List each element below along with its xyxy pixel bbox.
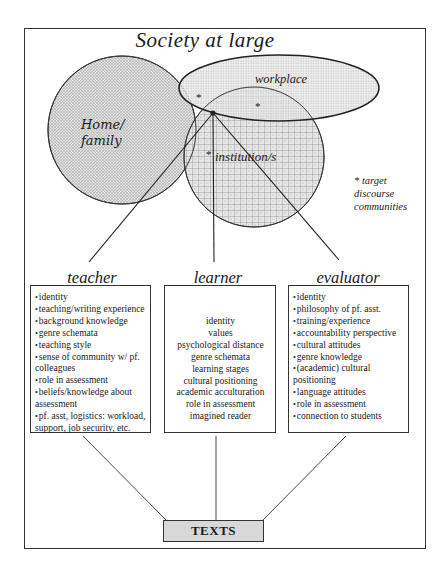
list-item: •sense of community w/ pf. colleagues xyxy=(35,352,147,376)
list-item: academic acculturation xyxy=(169,387,272,399)
learner-attributes-box: identity values psychological distance g… xyxy=(164,285,276,433)
list-item: •genre schemata xyxy=(35,328,147,340)
home-label-line2: family xyxy=(81,133,125,149)
target-communities-note: * target discourse communities xyxy=(354,174,407,213)
note-line2: discourse xyxy=(354,187,407,200)
list-item: learning stages xyxy=(169,364,272,376)
list-item: •(academic) cultural positioning xyxy=(293,363,405,387)
texts-output-box: TEXTS xyxy=(163,520,264,542)
list-item: cultural positioning xyxy=(169,376,272,388)
note-line3: communities xyxy=(354,200,407,213)
list-item: •cultural attitudes xyxy=(293,340,405,352)
workplace-label: workplace xyxy=(255,72,307,87)
svg-text:*: * xyxy=(255,100,261,112)
list-item: •teaching style xyxy=(35,340,147,352)
list-item: genre schemata xyxy=(169,352,272,364)
home-label-line1: Home/ xyxy=(81,117,125,133)
list-item: •identity xyxy=(293,292,405,304)
list-item: role in assessment xyxy=(169,399,272,411)
institution-label: institution/s xyxy=(215,149,276,165)
list-item: imagined reader xyxy=(169,411,272,423)
list-item: •philosophy of pf. asst. xyxy=(293,304,405,316)
list-item: •role in assessment xyxy=(293,399,405,411)
list-item: •beliefs/knowledge about assessment xyxy=(35,387,147,411)
svg-text:*: * xyxy=(206,148,212,160)
home-family-label: Home/ family xyxy=(81,117,125,149)
list-item: •training/experience xyxy=(293,316,405,328)
svg-text:*: * xyxy=(196,91,202,103)
list-item: •connection to students xyxy=(293,411,405,423)
list-item: •teaching/writing experience xyxy=(35,304,147,316)
evaluator-attributes-box: •identity •philosophy of pf. asst. •trai… xyxy=(288,285,409,433)
output-lines xyxy=(83,436,346,520)
note-line1: * target xyxy=(354,174,407,187)
list-item: identity xyxy=(169,316,272,328)
list-item: •genre knowledge xyxy=(293,352,405,364)
list-item: •pf. asst, logistics: workload, support,… xyxy=(35,411,147,435)
diagram-title: Society at large xyxy=(120,28,290,53)
list-item: •language attitudes xyxy=(293,387,405,399)
list-item: •background knowledge xyxy=(35,316,147,328)
list-item: values xyxy=(169,328,272,340)
list-item: •identity xyxy=(35,292,147,304)
list-item: •role in assessment xyxy=(35,375,147,387)
list-item: psychological distance xyxy=(169,340,272,352)
teacher-attributes-box: •identity •teaching/writing experience •… xyxy=(30,285,151,433)
workplace-ellipse xyxy=(179,55,379,121)
list-item: •accountability perspective xyxy=(293,328,405,340)
